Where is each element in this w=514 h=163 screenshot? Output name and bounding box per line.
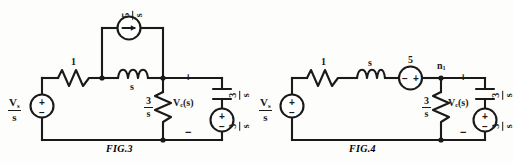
fig4-output-minus: − bbox=[460, 126, 466, 138]
fig4-source-right-label: 3 s bbox=[498, 115, 507, 138]
fig4-capacitor-label: 3 s bbox=[498, 84, 507, 107]
fig4-source-series-mid-plus: + bbox=[413, 73, 419, 84]
fig4-inductor-series-icon bbox=[357, 70, 385, 78]
fig3-node-dot-c bbox=[160, 137, 165, 142]
fig4-resistor-series-icon bbox=[307, 70, 341, 86]
fig4-schematic bbox=[257, 0, 514, 163]
fig3-output-voltage-label: Vc(s) bbox=[173, 98, 194, 109]
figure-fig4: Vs s + − 1 s 5 − + n1 3 s + Vc(s) − bbox=[257, 0, 514, 163]
fig3-output-minus: − bbox=[185, 126, 191, 138]
fig3-source-right-label: 3 s bbox=[235, 115, 244, 138]
fig4-output-plus: + bbox=[460, 71, 466, 83]
fig3-resistor-shunt-icon bbox=[155, 92, 171, 126]
fig4-output-voltage-label: Vc(s) bbox=[448, 98, 469, 109]
fig4-node-label: n1 bbox=[437, 61, 446, 72]
circuit-diagram-page: Vs s + − 1 s 5 s 3 s + bbox=[0, 0, 514, 163]
fig3-current-source-label: 5 s bbox=[128, 4, 137, 27]
fig4-inductor-series-label: s bbox=[368, 58, 372, 68]
fig3-node-dot-b bbox=[160, 75, 165, 80]
fig3-source-vs-label: Vs s bbox=[8, 97, 21, 123]
fig4-node-dot-n1 bbox=[438, 75, 443, 80]
fig3-inductor-series-icon bbox=[118, 70, 148, 78]
fig4-caption: FIG.4 bbox=[349, 143, 376, 154]
fig3-source-right-minus: − bbox=[219, 121, 225, 132]
fig3-inductor-series-label: s bbox=[130, 82, 134, 92]
fig4-source-right-minus: − bbox=[482, 121, 488, 132]
fig4-source-vs-label: Vs s bbox=[259, 97, 272, 123]
fig4-node-dot-bottom bbox=[438, 137, 443, 142]
fig4-resistor-shunt-icon bbox=[433, 92, 449, 126]
fig3-resistor-series-icon bbox=[58, 70, 92, 86]
fig3-resistor-series-label: 1 bbox=[71, 57, 76, 67]
fig3-caption: FIG.3 bbox=[106, 143, 133, 154]
fig4-source-series-mid-label: 5 bbox=[408, 55, 413, 65]
fig3-output-plus: + bbox=[185, 71, 191, 83]
fig4-resistor-shunt-label: 3 s bbox=[422, 96, 431, 119]
fig3-node-dot-a bbox=[99, 75, 104, 80]
fig3-capacitor-label: 3 s bbox=[235, 84, 244, 107]
fig3-resistor-shunt-label: 3 s bbox=[144, 96, 153, 119]
fig4-source-series-mid-minus: − bbox=[402, 73, 408, 84]
fig4-resistor-series-label: 1 bbox=[321, 57, 326, 67]
fig4-source-vs-minus: − bbox=[289, 107, 295, 118]
figure-fig3: Vs s + − 1 s 5 s 3 s + bbox=[0, 0, 257, 163]
fig3-source-vs-minus: − bbox=[39, 107, 45, 118]
